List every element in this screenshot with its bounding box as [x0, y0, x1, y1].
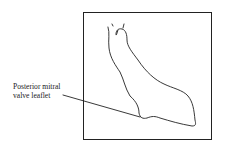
apex-tick-left: [112, 24, 113, 26]
mitral-valve-diagram: [0, 0, 231, 148]
apex-tick-right: [123, 24, 124, 28]
posterior-mitral-valve-leaflet-label: Posterior mitral valve leaflet: [13, 83, 60, 100]
label-line-2: valve leaflet: [13, 92, 60, 101]
leader-line: [63, 95, 140, 117]
